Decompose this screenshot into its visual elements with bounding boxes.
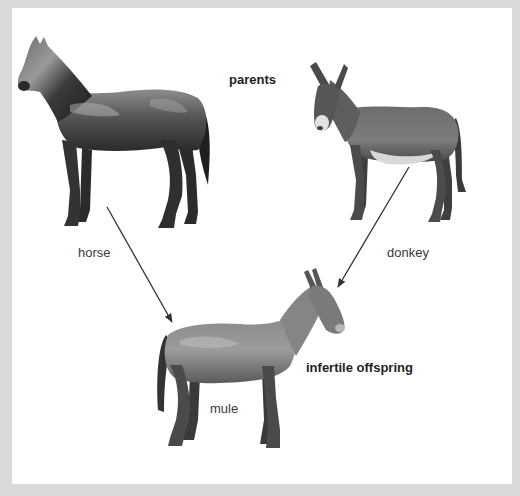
mule-illustration [157,268,345,448]
parents-heading: parents [229,73,276,87]
horse-illustration [18,36,210,228]
donkey-label: donkey [387,246,429,260]
horse-label: horse [78,246,111,260]
image-frame: parents horse donkey infertile offspring… [0,0,520,496]
donkey-to-mule-arrow [338,167,409,287]
donkey-illustration [310,62,466,222]
infertile-offspring-label: infertile offspring [306,361,413,375]
mule-label: mule [210,402,238,416]
